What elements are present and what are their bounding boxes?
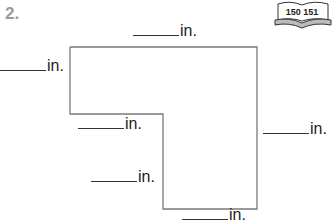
answer-blank[interactable] — [91, 180, 137, 182]
answer-blank[interactable] — [182, 218, 228, 220]
label-top: in. — [133, 23, 197, 39]
answer-blank[interactable] — [263, 132, 309, 134]
label-bottom: in. — [182, 207, 246, 223]
answer-blank[interactable] — [78, 127, 124, 129]
label-left-upper: in. — [0, 58, 64, 74]
answer-blank[interactable] — [0, 69, 46, 71]
label-left-middle: in. — [78, 116, 142, 132]
label-left-lower: in. — [91, 169, 155, 185]
answer-blank[interactable] — [133, 34, 179, 36]
label-right: in. — [263, 121, 327, 137]
